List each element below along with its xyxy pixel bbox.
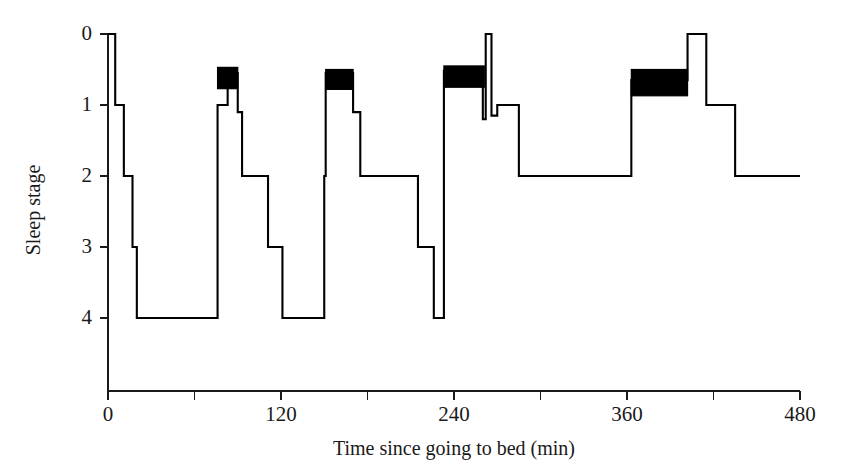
plot-area bbox=[108, 34, 800, 318]
y-tick-label: 1 bbox=[82, 92, 93, 116]
y-tick-label: 3 bbox=[82, 234, 93, 258]
hypnogram-figure: 01234 0120240360480 Time since going to … bbox=[0, 0, 854, 472]
x-tick-label: 0 bbox=[103, 402, 114, 426]
y-tick-label: 2 bbox=[82, 163, 93, 187]
y-axis-title: Sleep stage bbox=[22, 165, 45, 256]
rem-sleep-block bbox=[326, 70, 353, 90]
y-tick-group: 01234 bbox=[82, 21, 109, 329]
x-tick-label: 480 bbox=[784, 402, 816, 426]
x-tick-label: 120 bbox=[265, 402, 297, 426]
x-axis-title: Time since going to bed (min) bbox=[333, 437, 575, 460]
y-tick-label: 0 bbox=[82, 21, 93, 45]
rem-block-group bbox=[218, 66, 688, 96]
x-tick-label: 240 bbox=[438, 402, 470, 426]
hypnogram-svg: 01234 0120240360480 Time since going to … bbox=[0, 0, 854, 472]
rem-sleep-block bbox=[218, 67, 238, 88]
y-tick-label: 4 bbox=[82, 305, 93, 329]
x-tick-group: 0120240360480 bbox=[103, 391, 816, 426]
x-tick-label: 360 bbox=[611, 402, 643, 426]
x-axis: 0120240360480 bbox=[103, 391, 816, 426]
y-axis: 01234 bbox=[82, 21, 109, 391]
rem-sleep-block bbox=[631, 70, 687, 96]
rem-sleep-block bbox=[444, 66, 484, 87]
